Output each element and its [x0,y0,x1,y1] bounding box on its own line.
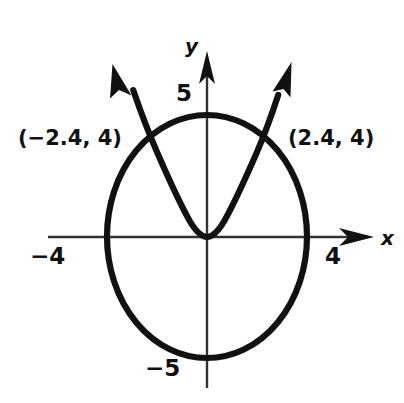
parabola-right-arrowhead [273,62,292,98]
point-label-left: (−2.4, 4) [18,128,122,149]
x-axis-label: x [381,228,394,248]
tick-label-y-neg5: −5 [145,357,180,380]
axes-group [48,51,374,388]
point-label-right: (2.4, 4) [288,128,374,149]
graph-figure: y x 5 −5 4 −4 (−2.4, 4) (2.4, 4) [0,0,404,403]
graph-canvas [0,0,404,403]
parabola-left-arrowhead [110,64,132,99]
tick-label-x-4: 4 [325,245,341,268]
tick-label-y-5: 5 [176,82,192,105]
y-axis-label: y [185,36,198,56]
tick-label-x-neg4: −4 [30,245,65,268]
